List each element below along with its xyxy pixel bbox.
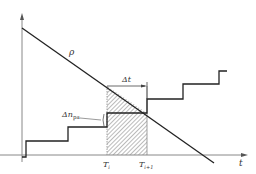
delta-n-brace [80,114,104,126]
T-i1-label: Ti+1 [139,160,153,170]
y-axis-arrow-icon [20,13,24,20]
x-axis-arrow-icon [241,153,248,157]
t-axis-label: t [239,158,243,168]
delta-t-label: Δt [121,75,132,84]
y-axis [20,13,24,162]
delta-n-label: Δnpa [61,110,80,121]
rho-label: ρ [68,47,75,57]
T-i-label: Ti [103,160,110,170]
diagram-canvas: ρ Δt Δnpa t Ti Ti+1 [0,0,256,174]
